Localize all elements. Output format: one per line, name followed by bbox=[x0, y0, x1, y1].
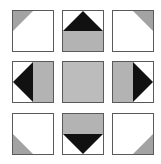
tile-corner-top-left bbox=[12, 10, 54, 52]
tile-edge-right bbox=[112, 61, 154, 103]
tile-corner-bottom-right bbox=[112, 113, 154, 155]
corner-triangle-bottom-left-icon bbox=[12, 113, 54, 155]
tile-edge-bottom bbox=[62, 113, 104, 155]
arrow-down-triangle-icon bbox=[62, 113, 104, 155]
center-square-icon bbox=[62, 61, 104, 103]
tile-corner-bottom-left bbox=[12, 113, 54, 155]
tile-corner-top-right bbox=[112, 10, 154, 52]
tile-edge-top bbox=[62, 10, 104, 52]
corner-triangle-top-right-icon bbox=[112, 10, 154, 52]
tile-edge-left bbox=[12, 61, 54, 103]
arrow-left-triangle-icon bbox=[12, 61, 54, 103]
quilt-block-diagram bbox=[0, 0, 161, 164]
arrow-up-triangle-icon bbox=[62, 10, 104, 52]
corner-triangle-bottom-right-icon bbox=[112, 113, 154, 155]
tile-center bbox=[62, 61, 104, 103]
corner-triangle-top-left-icon bbox=[12, 10, 54, 52]
arrow-right-triangle-icon bbox=[112, 61, 154, 103]
